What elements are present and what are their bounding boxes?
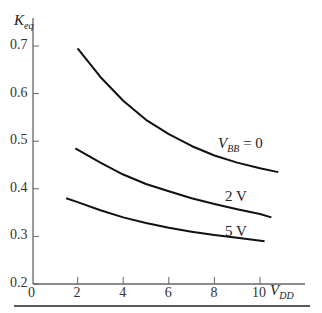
x-tick-label: 0 — [28, 285, 35, 301]
y-axis-label: Keq — [14, 12, 33, 31]
y-tick-label: 0.2 — [10, 275, 28, 291]
y-tick-label: 0.4 — [10, 180, 28, 196]
x-tick-label: 8 — [210, 285, 217, 301]
x-tick-label: 2 — [74, 285, 81, 301]
y-tick-label: 0.6 — [10, 85, 28, 101]
x-tick-label: 4 — [119, 285, 126, 301]
x-tick-label: 10 — [252, 285, 266, 301]
y-tick-label: 0.7 — [10, 37, 28, 53]
series-label-2v: 2 V — [225, 188, 247, 205]
series-label-5v: 5 V — [225, 223, 247, 240]
y-tick-label: 0.3 — [10, 227, 28, 243]
series-line-1 — [75, 148, 271, 217]
x-axis-label: VDD — [270, 282, 294, 301]
series-label-vbb0: VBB = 0 — [218, 135, 263, 154]
chart-canvas — [0, 0, 322, 313]
y-tick-label: 0.5 — [10, 132, 28, 148]
x-tick-label: 6 — [165, 285, 172, 301]
